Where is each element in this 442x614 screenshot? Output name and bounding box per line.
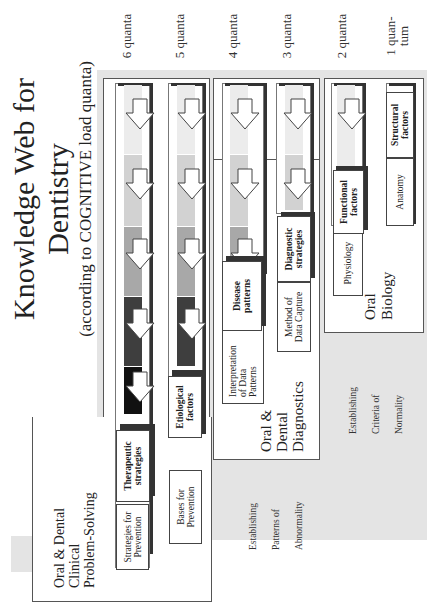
box-text: Method of [284,297,294,337]
box-text: Prevention [186,486,196,527]
box-text: Structural [390,104,400,146]
box-text: factors [349,188,359,216]
section-title-line: Problem-Solving [82,468,97,588]
box-text: Patterns [248,366,258,397]
box-diagnostic-strategies: Diagnostic strategies [277,216,311,282]
box-physiology: Physiology [333,230,363,296]
box-text: Therapeutic [123,441,133,491]
box-strategies-for-prevention: Strategies for Prevention [116,504,149,570]
box-text: factors [185,393,195,421]
side-line: Establishing [342,344,365,434]
section-clinical-title: Oral & Dental Clinical Problem-Solving [52,468,97,588]
section-biology-title: Oral Biology [362,260,396,320]
box-disease-patterns: Disease patterns [222,261,262,331]
diagram-stage: Knowledge Web for Dentistry (according t… [0,0,442,614]
box-anatomy: Anatomy [386,158,414,226]
box-text: Interpretation [228,345,238,397]
side-line: Abnormality [288,460,311,550]
box-text: Diagnostic [284,228,294,271]
box-text: of Data [238,369,248,397]
box-functional-factors: Functional factors [333,170,364,234]
side-line: Establishing [242,460,265,550]
box-text: Bases for [176,489,186,525]
box-bases-for-prevention: Bases for Prevention [169,470,202,544]
box-text: Physiology [343,242,353,285]
section-biology-side: Establishing Criteria of Normality [342,344,411,434]
section-title-line: Oral & Dental [52,468,67,588]
side-line: Criteria of [365,344,388,434]
box-text: strategies [133,447,143,486]
side-line: Normality [388,344,411,434]
section-title-line: Biology [379,260,396,320]
box-text: strategies [294,230,304,269]
box-text: patterns [242,279,252,313]
section-title-line: Oral & [258,362,274,452]
box-text: factors [400,111,410,139]
box-text: Functional [339,180,349,224]
box-etiological-factors: Etiological factors [168,376,202,438]
section-title-line: Clinical [67,468,82,588]
box-text: Etiological [175,385,185,428]
section-title-line: Dental [274,362,290,452]
box-text: Prevention [133,516,143,557]
side-line: Patterns of [265,460,288,550]
box-structural-factors: Structural factors [386,92,414,158]
section-diagnostics-title: Oral & Dental Diagnostics [258,362,306,452]
box-therapeutic-strategies: Therapeutic strategies [116,430,150,502]
section-title-line: Diagnostics [290,362,306,452]
box-text: Data Capture [294,292,304,342]
box-method-data-capture: Method of Data Capture [277,282,311,352]
section-diagnostics-side: Establishing Patterns of Abnormality [242,460,311,550]
box-text: Strategies for [123,512,133,563]
box-text: Disease [232,281,242,311]
arrow-icon [126,99,154,129]
section-title-line: Oral [362,260,379,320]
box-text: Anatomy [395,174,405,209]
